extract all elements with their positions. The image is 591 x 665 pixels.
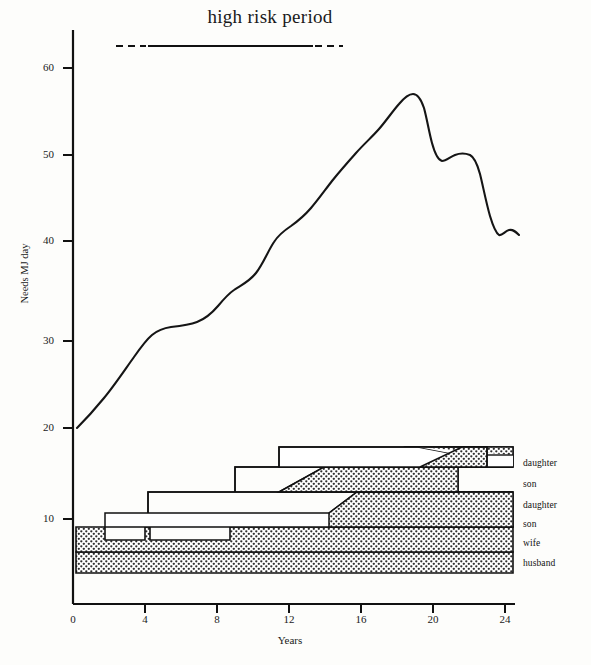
x-axis-ticks: [145, 604, 505, 613]
band-daughter-2: [279, 447, 513, 467]
band-wife: [76, 527, 513, 552]
needs-curve: [77, 94, 519, 428]
band-son-1: [105, 492, 513, 527]
chart-figure: high risk period Needs MJ day Years 60 5…: [0, 0, 591, 665]
y-axis-ticks: [63, 68, 73, 519]
plot-area: [0, 0, 591, 665]
band-husband: [76, 552, 513, 573]
